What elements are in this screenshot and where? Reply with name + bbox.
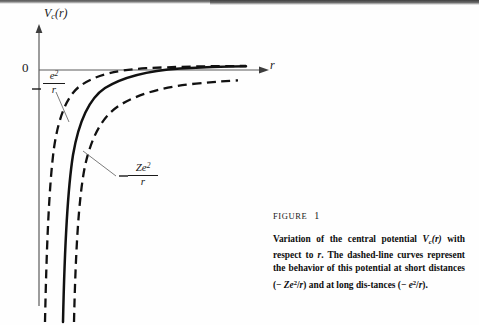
- figure-plot-area: Vc(r) r 0 e2 r Ze2 r: [0, 0, 290, 325]
- annotation-e2-denominator: r: [43, 84, 65, 96]
- annotation-Ze2-numerator: Ze2: [128, 162, 158, 174]
- curve-Ze2-over-r: [74, 80, 238, 322]
- curve-central-potential: [63, 66, 246, 322]
- annotation-e2-numerator: e2: [43, 70, 65, 82]
- figure-caption-text: Variation of the central potential Vc(r)…: [273, 233, 465, 293]
- y-axis-label: Vc(r): [44, 6, 68, 21]
- leader-line-Ze2-over-r: [83, 151, 116, 176]
- figure-number-line: FIGURE1: [273, 210, 465, 221]
- leader-line-e2-over-r: [56, 92, 69, 122]
- x-axis-label: r: [270, 58, 275, 73]
- figure-number: 1: [314, 210, 320, 221]
- annotation-Ze2-denominator: r: [128, 176, 158, 188]
- y-axis-label-argument: (r): [55, 6, 68, 20]
- annotation-e2-over-r: e2 r: [43, 70, 65, 95]
- figure-label: FIGURE: [273, 211, 307, 221]
- annotation-Ze2-over-r: Ze2 r: [128, 162, 158, 187]
- origin-zero-label: 0: [22, 60, 29, 76]
- figure-page: Vc(r) r 0 e2 r Ze2 r FIGURE1 Variation o…: [0, 0, 479, 325]
- curve-e2-over-r: [45, 66, 246, 322]
- y-axis: [36, 24, 43, 306]
- figure-caption-block: FIGURE1 Variation of the central potenti…: [273, 210, 465, 293]
